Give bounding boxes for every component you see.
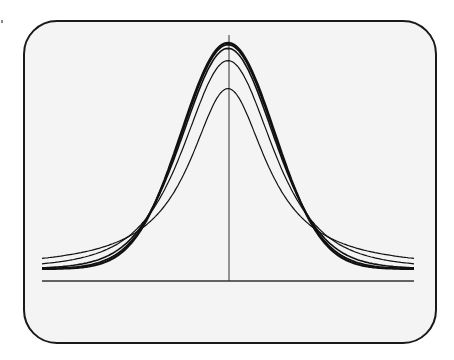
density-plot xyxy=(0,0,454,360)
density-curves xyxy=(42,43,414,269)
curve-df-10 xyxy=(42,48,414,267)
curve-df-30 xyxy=(42,45,414,269)
curve-df-1 xyxy=(42,89,414,259)
curve-df-3 xyxy=(42,61,414,264)
curve-normal xyxy=(42,43,414,269)
